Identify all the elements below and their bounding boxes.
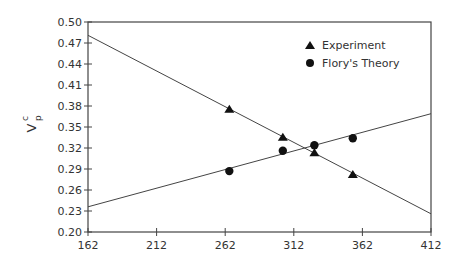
y-tick-label: 0.47 xyxy=(58,37,83,50)
triangle-marker-icon xyxy=(224,105,234,113)
plot-frame xyxy=(88,22,431,232)
y-tick-label: 0.50 xyxy=(58,16,83,29)
y-tick-label: 0.38 xyxy=(58,100,83,113)
legend-experiment-label: Experiment xyxy=(322,39,386,52)
x-tick-label: 212 xyxy=(146,239,167,252)
y-tick-label: 0.32 xyxy=(58,142,83,155)
x-tick-label: 162 xyxy=(78,239,99,252)
y-axis-label: V c p xyxy=(20,115,43,132)
y-tick-label: 0.44 xyxy=(58,58,83,71)
circle-marker-icon xyxy=(310,141,318,149)
y-tick-label: 0.20 xyxy=(58,226,83,239)
legend-theory-label: Flory's Theory xyxy=(322,57,400,70)
legend-circle-icon xyxy=(306,59,314,67)
svg-text:p: p xyxy=(33,115,43,121)
x-tick-label: 262 xyxy=(215,239,236,252)
svg-text:c: c xyxy=(20,116,30,121)
y-tick-label: 0.26 xyxy=(58,184,83,197)
y-tick-label: 0.23 xyxy=(58,205,83,218)
circle-marker-icon xyxy=(349,134,357,142)
triangle-marker-icon xyxy=(278,133,288,141)
legend: Experiment Flory's Theory xyxy=(305,39,400,70)
chart: 0.200.230.260.290.320.350.380.410.440.47… xyxy=(0,0,464,268)
circle-marker-icon xyxy=(225,167,233,175)
x-tick-label: 312 xyxy=(283,239,304,252)
circle-marker-icon xyxy=(279,147,287,155)
legend-triangle-icon xyxy=(305,41,315,49)
fit-line xyxy=(88,114,431,207)
x-tick-label: 362 xyxy=(352,239,373,252)
x-tick-label: 412 xyxy=(421,239,442,252)
y-tick-label: 0.29 xyxy=(58,163,83,176)
y-tick-label: 0.35 xyxy=(58,121,83,134)
svg-text:V: V xyxy=(24,123,39,132)
y-tick-label: 0.41 xyxy=(58,79,83,92)
